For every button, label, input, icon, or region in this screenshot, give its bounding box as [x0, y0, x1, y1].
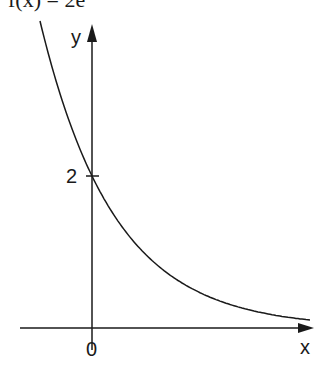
origin-label: 0: [86, 339, 97, 359]
x-axis-label: x: [300, 337, 310, 357]
y-tick-label: 2: [66, 166, 77, 186]
y-axis-label: y: [71, 27, 81, 47]
exponential-curve: [40, 21, 310, 320]
plot-area: [0, 0, 322, 369]
x-axis-arrow-icon: [298, 323, 314, 333]
y-axis-arrow-icon: [87, 24, 97, 42]
